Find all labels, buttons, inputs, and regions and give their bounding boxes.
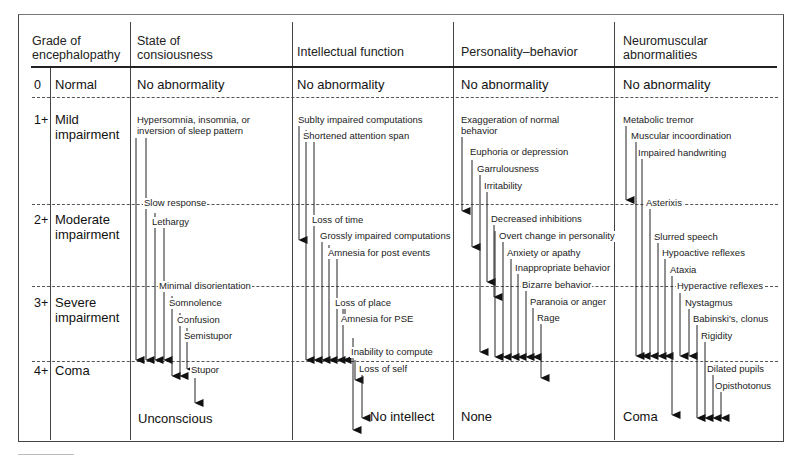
neuro-item: Hypoactive reflexes xyxy=(661,248,746,259)
personality-item: Rage xyxy=(536,313,561,324)
consciousness-item: Minimal disorientation xyxy=(158,281,252,292)
consciousness-item: Semistupor xyxy=(183,331,233,342)
neuro-item: Metabolic tremor xyxy=(622,115,695,126)
intellect-item: Amnesia for PSE xyxy=(340,314,414,325)
intellect-item: Shortened attention span xyxy=(302,131,410,142)
intellect-item: Amnesia for post events xyxy=(327,248,431,259)
intellect-item: Loss of place xyxy=(334,298,392,309)
personality-item: behavior xyxy=(460,126,498,137)
personality-item: Euphoria or depression xyxy=(469,147,569,158)
consciousness-item: Lethargy xyxy=(151,217,190,228)
neuro-item: Babinski's, clonus xyxy=(692,314,769,325)
personality-item: Decreased inhibitions xyxy=(490,214,583,225)
encephalopathy-grading-diagram: Grade of encephalopathy State of consiou… xyxy=(0,0,807,462)
intellect-item: Sublty impaired computations xyxy=(297,115,424,126)
neuro-item: Ataxia xyxy=(669,265,697,276)
footer-rule xyxy=(18,454,74,455)
consciousness-item: Confusion xyxy=(176,315,221,326)
personality-item: Overt change in personality xyxy=(498,231,616,242)
consciousness-item: Stupor xyxy=(190,365,220,376)
intellect-item: Loss of time xyxy=(311,215,364,226)
personality-item: Irritability xyxy=(483,181,523,192)
personality-item: Garrulousness xyxy=(476,164,540,175)
intellect-item: Grossly impaired computations xyxy=(319,231,451,242)
neuro-item: Slurred speech xyxy=(653,232,719,243)
neuro-item: Rigidity xyxy=(700,331,733,342)
neuro-item: Hyperactive reflexes xyxy=(676,281,764,292)
neuro-item: Nystagmus xyxy=(684,298,734,309)
personality-item: Bizarre behavior xyxy=(521,280,592,291)
intellect-item: Loss of self xyxy=(358,364,408,375)
personality-item: Anxiety or apathy xyxy=(506,248,581,259)
personality-item: Inappropriate behavior xyxy=(514,263,611,274)
neuro-item: Dilated pupils xyxy=(706,364,765,375)
neuro-item: Asterixis xyxy=(645,198,683,209)
personality-item: Paranoia or anger xyxy=(529,297,607,308)
neuro-item: Opisthotonus xyxy=(714,381,772,392)
consciousness-item: inversion of sleep pattern xyxy=(136,126,244,137)
intellect-item: Inability to compute xyxy=(350,347,434,358)
consciousness-item: Slow response xyxy=(143,198,207,209)
neuro-item: Muscular incoordination xyxy=(630,131,732,142)
consciousness-item: Somnolence xyxy=(168,298,223,309)
neuro-item: Impaired handwriting xyxy=(637,148,727,159)
